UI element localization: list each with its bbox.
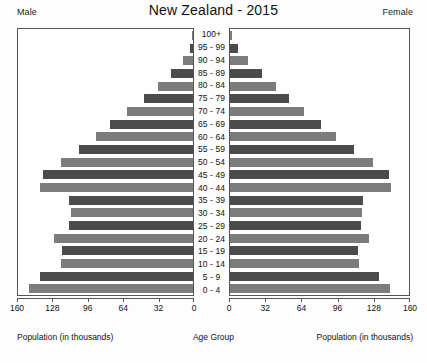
female-axis-caption: Population (in thousands) xyxy=(317,332,413,342)
male-bar xyxy=(190,44,193,53)
axis-tick-label: 160 xyxy=(403,303,417,313)
female-bar xyxy=(230,272,379,281)
female-bar xyxy=(230,145,354,154)
male-bar-row xyxy=(18,257,193,270)
age-group-label: 90 - 94 xyxy=(194,54,229,67)
male-bar-row xyxy=(18,282,193,295)
female-bar-row xyxy=(230,143,409,156)
axis-tick-label: 128 xyxy=(45,303,59,313)
age-group-label: 5 - 9 xyxy=(194,271,229,284)
age-group-label: 80 - 84 xyxy=(194,79,229,92)
male-x-axis: 1601289664320 xyxy=(17,298,194,312)
male-bar xyxy=(62,246,193,255)
female-bar xyxy=(230,69,262,78)
age-group-labels: 100+95 - 9990 - 9485 - 8980 - 8475 - 797… xyxy=(194,28,229,296)
axis-tick xyxy=(301,298,302,302)
age-group-label: 0 - 4 xyxy=(194,283,229,296)
male-bar-row xyxy=(18,181,193,194)
axis-tick xyxy=(374,298,375,302)
male-bar xyxy=(144,94,193,103)
female-bar xyxy=(230,183,391,192)
axis-tick-label: 0 xyxy=(192,303,197,313)
male-bar-row xyxy=(18,156,193,169)
axis-tick xyxy=(123,298,124,302)
male-bar xyxy=(158,82,193,91)
male-bar-row xyxy=(18,270,193,283)
age-group-label: 60 - 64 xyxy=(194,130,229,143)
axis-tick-label: 64 xyxy=(297,303,306,313)
axis-tick-label: 0 xyxy=(227,303,232,313)
male-bar-row xyxy=(18,118,193,131)
male-bar xyxy=(110,120,193,129)
population-pyramid-chart: Male New Zealand - 2015 Female 100+95 - … xyxy=(0,0,427,363)
male-bar-row xyxy=(18,29,193,42)
female-bar-row xyxy=(230,105,409,118)
male-bar-row xyxy=(18,194,193,207)
female-bars-container xyxy=(230,29,409,295)
axis-tick-label: 160 xyxy=(10,303,24,313)
male-bar-row xyxy=(18,54,193,67)
female-bar-row xyxy=(230,118,409,131)
age-group-label: 65 - 69 xyxy=(194,117,229,130)
age-group-label: 50 - 54 xyxy=(194,156,229,169)
age-group-label: 30 - 34 xyxy=(194,207,229,220)
male-bar xyxy=(69,196,193,205)
axis-tick-label: 128 xyxy=(367,303,381,313)
age-group-label: 95 - 99 xyxy=(194,41,229,54)
male-bar-row xyxy=(18,130,193,143)
axis-tick xyxy=(159,298,160,302)
age-group-label: 55 - 59 xyxy=(194,143,229,156)
female-bar xyxy=(230,259,359,268)
male-bar xyxy=(71,208,194,217)
male-bar xyxy=(69,221,193,230)
female-bar-row xyxy=(230,156,409,169)
female-bar xyxy=(230,208,362,217)
axis-tick-label: 96 xyxy=(83,303,92,313)
chart-header: Male New Zealand - 2015 Female xyxy=(0,0,427,28)
female-bar-row xyxy=(230,194,409,207)
axis-tick xyxy=(409,298,410,302)
male-bar-row xyxy=(18,67,193,80)
axis-tick xyxy=(229,298,230,302)
axis-tick-label: 32 xyxy=(154,303,163,313)
female-panel xyxy=(229,28,410,296)
male-bar-row xyxy=(18,92,193,105)
female-axis-line xyxy=(229,298,410,299)
female-bar xyxy=(230,120,321,129)
male-bar-row xyxy=(18,80,193,93)
female-side-label: Female xyxy=(382,7,413,17)
male-bar-row xyxy=(18,219,193,232)
female-bar xyxy=(230,234,369,243)
age-group-label: 40 - 44 xyxy=(194,181,229,194)
female-bar-row xyxy=(230,42,409,55)
axis-tick-label: 64 xyxy=(118,303,127,313)
age-group-label: 85 - 89 xyxy=(194,66,229,79)
male-bar-row xyxy=(18,42,193,55)
chart-title: New Zealand - 2015 xyxy=(0,2,427,18)
female-bar-row xyxy=(230,130,409,143)
male-bar-row xyxy=(18,206,193,219)
male-panel xyxy=(17,28,194,296)
axis-tick-label: 96 xyxy=(333,303,342,313)
male-bar xyxy=(61,158,193,167)
male-axis-line xyxy=(17,298,194,299)
axis-tick xyxy=(52,298,53,302)
male-bar-row xyxy=(18,232,193,245)
female-bar-row xyxy=(230,80,409,93)
male-bar xyxy=(96,132,193,141)
female-bar xyxy=(230,31,232,40)
male-bar xyxy=(183,56,193,65)
age-group-label: 70 - 74 xyxy=(194,105,229,118)
axis-tick xyxy=(265,298,266,302)
female-bar xyxy=(230,284,390,293)
age-group-label: 25 - 29 xyxy=(194,219,229,232)
axis-tick xyxy=(88,298,89,302)
female-bar-row xyxy=(230,29,409,42)
female-bar xyxy=(230,107,304,116)
female-bar-row xyxy=(230,282,409,295)
female-bar xyxy=(230,82,276,91)
female-bar xyxy=(230,246,358,255)
female-bar-row xyxy=(230,168,409,181)
female-bar-row xyxy=(230,67,409,80)
female-bar-row xyxy=(230,181,409,194)
